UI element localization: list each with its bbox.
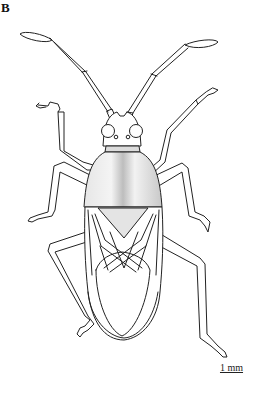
pronotum [84, 152, 162, 207]
insect-illustration [0, 0, 260, 395]
hind-right-leg [152, 230, 227, 357]
collar [105, 146, 140, 152]
figure-panel: B [0, 0, 260, 395]
right-antenna [126, 40, 218, 119]
left-antenna [20, 32, 115, 118]
scale-bar-label: 1 mm [218, 363, 245, 373]
head [102, 112, 143, 146]
front-left-leg [36, 102, 94, 170]
wings [85, 207, 163, 340]
scale-bar: 1 mm [218, 363, 245, 373]
